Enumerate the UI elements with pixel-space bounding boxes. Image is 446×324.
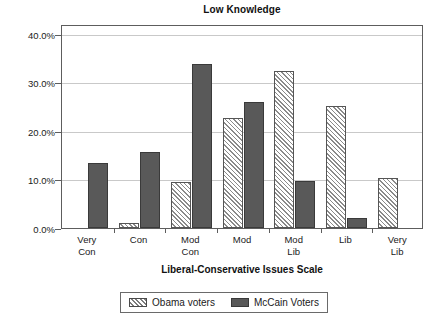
chart-title: Low Knowledge bbox=[61, 4, 423, 15]
y-tick-label: 0.0% bbox=[5, 224, 55, 235]
y-tick-label: 40.0% bbox=[5, 29, 55, 40]
x-tick-mark bbox=[165, 228, 166, 233]
plot-inner bbox=[62, 26, 422, 228]
x-category-label-very-lib: VeryLib bbox=[371, 234, 423, 257]
bar-mod-mccain bbox=[244, 102, 264, 228]
hatched-swatch-icon bbox=[129, 298, 147, 307]
bar-mod-obama bbox=[223, 118, 243, 228]
x-category-line: Mod bbox=[268, 234, 320, 246]
bar-lib-mccain bbox=[347, 218, 367, 228]
x-category-line: Mod bbox=[164, 234, 216, 246]
x-category-line: Mod bbox=[216, 234, 268, 246]
y-tick-mark bbox=[55, 180, 61, 181]
legend-item-mccain[interactable]: McCain Voters bbox=[231, 297, 319, 308]
bar-lib-obama bbox=[326, 106, 346, 228]
x-category-line: Lib bbox=[371, 246, 423, 258]
x-axis-title: Liberal-Conservative Issues Scale bbox=[61, 264, 423, 275]
chart-figure: Low Knowledge Liberal-Conservative Issue… bbox=[0, 0, 446, 324]
x-category-line: Con bbox=[61, 246, 113, 258]
y-tick-mark bbox=[55, 132, 61, 133]
x-tick-mark bbox=[217, 228, 218, 233]
chart-legend: Obama voters McCain Voters bbox=[120, 292, 328, 313]
x-category-label-mod-lib: ModLib bbox=[268, 234, 320, 257]
legend-item-obama[interactable]: Obama voters bbox=[129, 297, 215, 308]
bar-mod-con-mccain bbox=[192, 64, 212, 228]
bar-con-mccain bbox=[140, 152, 160, 228]
solid-dark-swatch-icon bbox=[231, 298, 249, 307]
x-category-line: Very bbox=[61, 234, 113, 246]
gridline bbox=[62, 35, 422, 36]
plot-area bbox=[61, 25, 423, 229]
y-tick-label: 30.0% bbox=[5, 78, 55, 89]
x-category-line: Lib bbox=[268, 246, 320, 258]
x-tick-mark bbox=[372, 228, 373, 233]
x-tick-mark bbox=[114, 228, 115, 233]
y-tick-label: 20.0% bbox=[5, 126, 55, 137]
y-tick-label: 10.0% bbox=[5, 175, 55, 186]
x-category-line: Con bbox=[113, 234, 165, 246]
x-tick-mark bbox=[269, 228, 270, 233]
x-category-line: Very bbox=[371, 234, 423, 246]
x-category-line: Con bbox=[164, 246, 216, 258]
y-tick-mark bbox=[55, 35, 61, 36]
bar-mod-lib-mccain bbox=[295, 181, 315, 228]
x-tick-mark bbox=[321, 228, 322, 233]
legend-label-mccain: McCain Voters bbox=[254, 297, 319, 308]
x-category-line: Lib bbox=[320, 234, 372, 246]
x-category-label-mod-con: ModCon bbox=[164, 234, 216, 257]
bar-mod-con-obama bbox=[171, 182, 191, 228]
y-tick-mark bbox=[55, 229, 61, 230]
x-category-label-lib: Lib bbox=[320, 234, 372, 246]
y-tick-mark bbox=[55, 83, 61, 84]
bar-mod-lib-obama bbox=[274, 71, 294, 228]
bar-very-con-mccain bbox=[88, 163, 108, 228]
bar-very-lib-obama bbox=[378, 178, 398, 228]
bar-con-obama bbox=[119, 223, 139, 228]
x-category-label-con: Con bbox=[113, 234, 165, 246]
x-category-label-mod: Mod bbox=[216, 234, 268, 246]
legend-label-obama: Obama voters bbox=[152, 297, 215, 308]
gridline bbox=[62, 83, 422, 84]
x-category-label-very-con: VeryCon bbox=[61, 234, 113, 257]
